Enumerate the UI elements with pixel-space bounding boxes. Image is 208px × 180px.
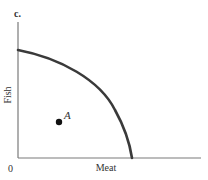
x-axis-label: Meat [96,162,117,173]
origin-label: 0 [8,163,13,174]
point-a-label: A [63,109,71,121]
y-axis-label: Fish [2,86,13,103]
ppf-chart: c. A Fish Meat 0 [0,0,208,180]
point-a-marker [56,119,62,125]
ppf-curve [18,50,132,158]
ppf-diagram: c. A Fish Meat 0 [0,0,208,180]
panel-label: c. [14,8,21,19]
